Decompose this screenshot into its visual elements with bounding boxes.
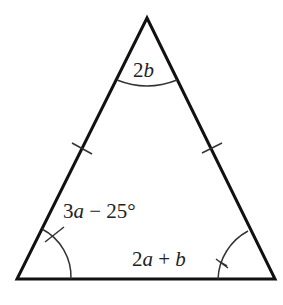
left-side-tick-mark — [72, 143, 92, 154]
bottom-left-angle-arc — [42, 229, 71, 279]
apex-angle-label: 2b — [133, 58, 154, 82]
triangle-diagram: 2b 3a − 25° 2a + b — [0, 0, 283, 305]
bottom-left-angle-label: 3a − 25° — [63, 199, 136, 223]
bottom-left-angle-tick — [45, 227, 64, 242]
bottom-right-angle-label: 2a + b — [132, 247, 186, 271]
bottom-right-angle-arc — [218, 231, 248, 279]
